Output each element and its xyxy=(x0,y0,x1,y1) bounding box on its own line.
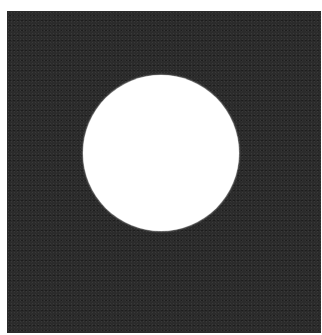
white-circle xyxy=(83,75,239,231)
dark-textured-square xyxy=(7,11,321,333)
